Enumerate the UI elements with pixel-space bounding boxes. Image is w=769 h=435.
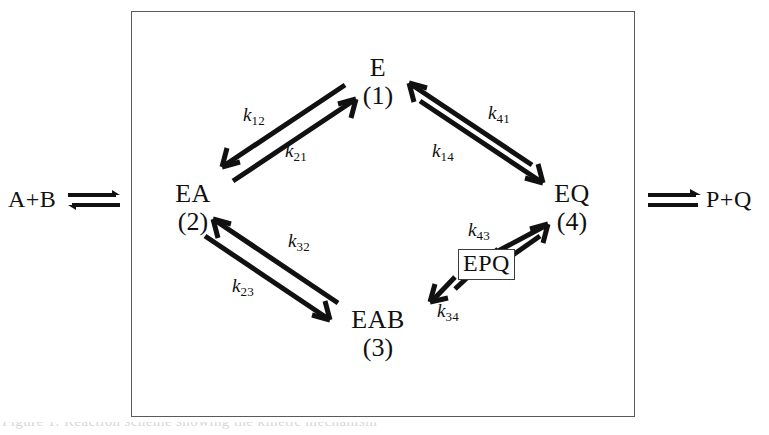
rate-label-k34: k34 bbox=[437, 300, 459, 325]
figure-caption-text: Figure 1. Reaction scheme showing the ki… bbox=[2, 422, 377, 430]
rate-k21-sub: 21 bbox=[293, 149, 307, 164]
rate-k43-sub: 43 bbox=[476, 228, 490, 243]
rate-k14-sub: 14 bbox=[440, 149, 454, 164]
rate-k41-sub: 41 bbox=[496, 111, 510, 126]
rate-label-k43: k43 bbox=[468, 219, 490, 244]
reversible-arrow-icon-input bbox=[66, 188, 122, 214]
state-node-ea: EA (2) bbox=[155, 180, 231, 235]
rate-label-k23: k23 bbox=[232, 275, 254, 300]
rate-label-k41: k41 bbox=[488, 102, 510, 127]
rate-k12-sub: 12 bbox=[251, 113, 265, 128]
state-node-epq-boxed: EPQ bbox=[458, 249, 515, 280]
rate-label-k12: k12 bbox=[243, 104, 265, 129]
figure-canvas: A+B P+Q bbox=[0, 0, 769, 435]
state-node-eq-symbol: EQ bbox=[534, 180, 610, 208]
rate-k23-sub: 23 bbox=[240, 284, 254, 299]
state-node-eab: EAB (3) bbox=[330, 306, 426, 361]
state-node-epq-symbol: EPQ bbox=[463, 250, 510, 276]
reversible-arrow-icon-output bbox=[646, 188, 702, 214]
state-node-e-number: (1) bbox=[340, 82, 416, 110]
state-node-eab-symbol: EAB bbox=[330, 306, 426, 334]
state-node-ea-number: (2) bbox=[155, 208, 231, 236]
rate-label-k32: k32 bbox=[288, 230, 310, 255]
rate-label-k21: k21 bbox=[285, 140, 307, 165]
state-node-ea-symbol: EA bbox=[155, 180, 231, 208]
state-node-e: E (1) bbox=[340, 54, 416, 109]
rate-k34-sub: 34 bbox=[445, 309, 459, 324]
figure-caption-clipped: Figure 1. Reaction scheme showing the ki… bbox=[0, 422, 769, 435]
reagent-output-label: P+Q bbox=[706, 186, 752, 213]
state-node-e-symbol: E bbox=[340, 54, 416, 82]
reagent-input-label: A+B bbox=[8, 186, 56, 213]
rate-k32-sub: 32 bbox=[296, 239, 310, 254]
rate-label-k14: k14 bbox=[432, 140, 454, 165]
state-node-eq: EQ (4) bbox=[534, 180, 610, 235]
state-node-eq-number: (4) bbox=[534, 208, 610, 236]
state-node-eab-number: (3) bbox=[330, 334, 426, 362]
